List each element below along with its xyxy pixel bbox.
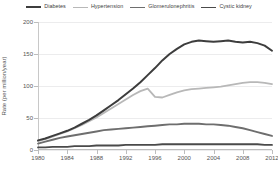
plot-area: 050100150200 198019841988199219962000200…	[38, 22, 272, 150]
legend-item-2[interactable]: Glomerulonephritis	[130, 4, 194, 9]
x-tick-label: 2004	[207, 155, 220, 161]
x-tick	[67, 150, 68, 154]
legend-item-0[interactable]: Diabetes	[26, 4, 66, 9]
x-tick	[126, 150, 127, 154]
x-tick	[38, 150, 39, 154]
line-chart: DiabetesHypertensionGlomerulonephritisCy…	[0, 0, 278, 174]
legend-swatch-line-icon	[130, 7, 145, 8]
series-lines	[38, 22, 272, 150]
legend-item-3[interactable]: Cystic kidney	[201, 4, 251, 9]
x-tick-label: 1996	[148, 155, 161, 161]
series-line-cystic-kidney	[38, 144, 272, 147]
x-tick	[184, 150, 185, 154]
y-tick-label: 200	[23, 19, 33, 25]
x-tick-label: 2012	[265, 155, 278, 161]
y-tick-label: 150	[23, 51, 33, 57]
x-tick	[155, 150, 156, 154]
series-line-glomerulonephritis	[38, 124, 272, 144]
legend-label: Cystic kidney	[219, 4, 251, 9]
legend-swatch-line-icon	[201, 7, 216, 8]
x-tick-label: 1984	[61, 155, 74, 161]
y-tick	[34, 86, 38, 87]
x-tick	[97, 150, 98, 154]
legend-label: Hypertension	[91, 4, 123, 9]
x-tick-label: 1992	[119, 155, 132, 161]
x-tick-label: 2008	[236, 155, 249, 161]
legend-swatch-line-icon	[26, 6, 41, 8]
x-tick	[272, 150, 273, 154]
x-tick	[214, 150, 215, 154]
y-tick-label: 50	[26, 115, 33, 121]
y-tick	[34, 118, 38, 119]
y-tick	[34, 54, 38, 55]
legend-item-1[interactable]: Hypertension	[73, 4, 123, 9]
y-axis-title: Rate (per million/year)	[1, 56, 7, 115]
y-tick-label: 0	[30, 147, 33, 153]
y-tick	[34, 22, 38, 23]
x-tick-label: 2000	[178, 155, 191, 161]
chart-legend: DiabetesHypertensionGlomerulonephritisCy…	[0, 0, 278, 14]
series-line-hypertension	[38, 82, 272, 141]
legend-label: Glomerulonephritis	[148, 4, 194, 9]
legend-label: Diabetes	[44, 4, 66, 9]
x-tick-label: 1988	[90, 155, 103, 161]
x-tick-label: 1980	[31, 155, 44, 161]
x-tick	[243, 150, 244, 154]
legend-swatch-line-icon	[73, 7, 88, 8]
y-tick-label: 100	[23, 83, 33, 89]
